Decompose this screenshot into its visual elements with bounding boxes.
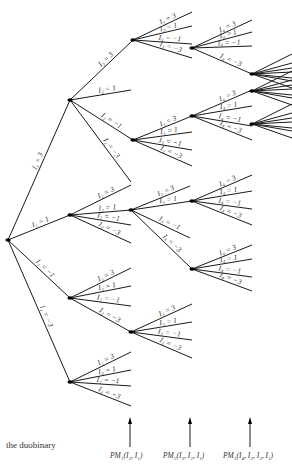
- edge-label: I₃ = −1: [157, 213, 182, 231]
- tree-node: [189, 199, 194, 203]
- edge-label: I₁ = −3: [38, 303, 56, 329]
- edge-label: I₂ = 3: [95, 184, 116, 200]
- tree-node: [128, 330, 133, 334]
- tree-edge: [70, 298, 131, 332]
- tree-node: [67, 296, 72, 300]
- tree-node: [189, 267, 194, 271]
- caption-text: the duobinary: [6, 440, 56, 450]
- edge-label: I₃ = −3: [160, 231, 183, 254]
- edge-label: I₂ = −3: [96, 384, 122, 401]
- tree-edge: [70, 100, 133, 140]
- tree-node: [130, 138, 135, 142]
- edge-label: I₄ = 1: [218, 184, 238, 196]
- tree-node: [189, 46, 194, 50]
- tree-node: [67, 213, 72, 217]
- path-metric-label-3: PM₃(I₄, I₃, I₂, I₁): [223, 451, 273, 460]
- tree-node: [67, 98, 72, 102]
- tree-node: [249, 122, 254, 126]
- edge-label: I₂ = −1: [96, 210, 121, 223]
- edge-label: I₃ = −1: [157, 326, 182, 338]
- path-metric-label-1: PM₁(I₂, I₁): [110, 451, 142, 460]
- tree-node: [128, 208, 133, 212]
- trellis-tree-diagram: I₁ = 3I₁ = 1I₁ = −1I₁ = −3I₂ = 3I₂ = 1I₂…: [0, 0, 292, 469]
- tree-edge: [70, 100, 131, 182]
- tree-edge: [8, 240, 70, 298]
- edge-label: I₄ = −3: [218, 51, 244, 69]
- arrow-up-icon: [248, 417, 252, 424]
- arrow-up-icon: [128, 417, 132, 424]
- edge-label: I₃ = 1: [158, 315, 178, 327]
- edge-label: I₂ = −3: [97, 305, 122, 325]
- edge-label: I₄ = 1: [218, 99, 238, 111]
- edge-label: I₂ = −1: [96, 292, 121, 304]
- tree-node: [249, 72, 254, 76]
- tree-node: [249, 89, 254, 93]
- edge-label: I₄ = 1: [218, 252, 238, 264]
- path-metric-label-2: PM₂(I₃, I₂, I₁): [163, 451, 204, 460]
- tree-node: [189, 114, 194, 118]
- tree-node: [130, 38, 135, 42]
- edge-label: I₂ = −1: [95, 375, 119, 386]
- tree-node: [67, 380, 72, 384]
- tree-node: [5, 238, 10, 242]
- edge-label: I₄ = −1: [217, 37, 241, 47]
- edge-label: I₁ = −1: [33, 257, 56, 280]
- arrow-up-icon: [188, 417, 192, 424]
